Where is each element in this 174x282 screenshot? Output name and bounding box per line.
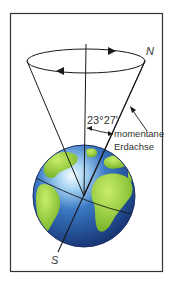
north-label: N — [146, 45, 154, 57]
precession-diagram: 23°27' momentane Erdachse N S — [0, 0, 174, 282]
axis-label-line2: Erdachse — [114, 141, 154, 152]
axis-label-line1: momentane — [114, 128, 164, 139]
south-label: S — [51, 254, 59, 266]
angle-label: 23°27' — [87, 114, 118, 126]
